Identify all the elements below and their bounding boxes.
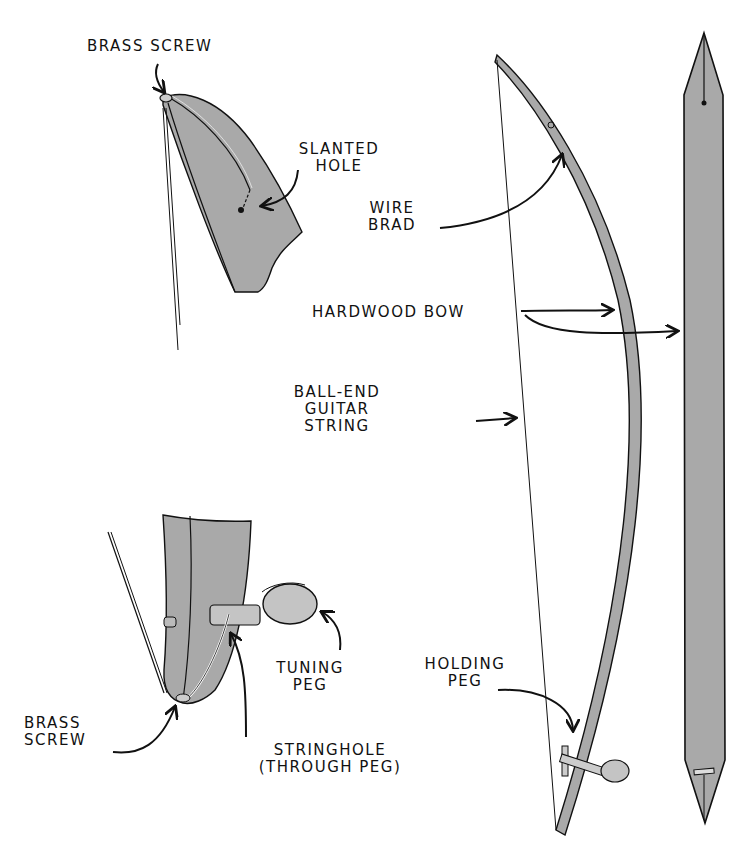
slanted-hole-dot [238,207,244,213]
front-view [684,33,725,823]
hardwood-bow-side [495,55,641,835]
label-wire-brad: WIRE BRAD [352,200,432,234]
hardwood-bow-front [684,33,725,823]
label-tuning-peg: TUNING PEG [255,660,365,694]
label-brass-screw-bottom: BRASS SCREW [24,715,86,749]
label-slanted-hole: SLANTED HOLE [289,141,389,175]
label-string-hole: STRINGHOLE (THROUGH PEG) [240,742,420,776]
label-guitar-string: BALL-END GUITAR STRING [284,384,390,435]
holding-peg-side [560,746,629,782]
side-view [440,55,641,835]
guitar-string-side [497,60,556,830]
label-holding-peg: HOLDING PEG [415,656,515,690]
label-brass-screw-top: BRASS SCREW [87,38,212,55]
string-bottom-detail [108,532,164,693]
bow-tip-wood [163,95,302,292]
label-hardwood-bow: HARDWOOD BOW [312,304,465,321]
bottom-end-detail [108,515,340,752]
brass-screw-bottom-head [176,694,190,702]
top-end-detail [156,64,302,350]
string-top-detail [163,108,178,350]
brass-screw-top-head [160,94,172,102]
